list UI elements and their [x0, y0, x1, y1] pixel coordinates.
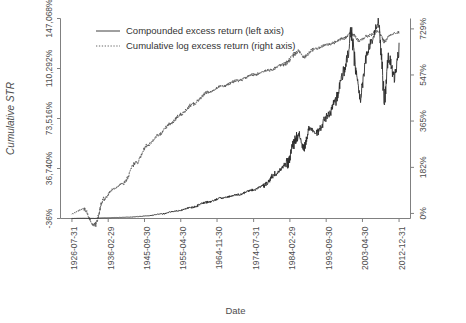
series-cumulative-log-excess-return: [72, 30, 399, 227]
x-tick-label: 1936-02-29: [106, 226, 116, 270]
x-tick-label: 1926-07-31: [69, 226, 79, 270]
right-tick-label: 729%: [418, 18, 428, 40]
x-tick-label: 2003-04-30: [360, 226, 370, 270]
x-tick-label: 1993-09-30: [324, 226, 334, 270]
x-tick-label: 1964-11-30: [214, 226, 224, 269]
legend-label: Cumulative log excess return (right axis…: [126, 40, 295, 51]
legend-label: Compounded excess return (left axis): [126, 25, 284, 36]
x-tick-label: 1974-07-31: [251, 226, 261, 270]
x-tick-label: 1945-09-30: [142, 226, 152, 270]
left-tick-label: 147,068%: [44, 0, 54, 38]
left-tick-label: -36%: [44, 208, 54, 228]
right-tick-label: 547%: [418, 64, 428, 86]
left-tick-label: 36,740%: [44, 151, 54, 185]
x-tick-label: 1984-02-29: [287, 226, 297, 270]
x-axis-title: Date: [225, 305, 245, 316]
y-axis-title: Cumulative STR: [5, 82, 16, 155]
right-tick-label: 365%: [418, 110, 428, 132]
x-tick-label: 1955-04-30: [178, 226, 188, 270]
chart-figure: 1926-07-311936-02-291945-09-301955-04-30…: [0, 0, 466, 323]
chart-svg: 1926-07-311936-02-291945-09-301955-04-30…: [0, 0, 466, 323]
x-tick-label: 2012-12-31: [397, 226, 407, 270]
left-tick-label: 73,516%: [44, 101, 54, 135]
right-tick-label: 182%: [418, 156, 428, 178]
right-tick-label: 0%: [418, 207, 428, 220]
left-tick-label: 110,292%: [44, 49, 54, 87]
